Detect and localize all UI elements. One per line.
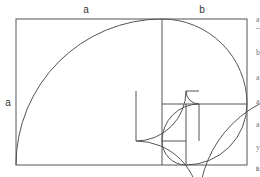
spiral-arc: [186, 104, 247, 165]
label-top-b: b: [199, 4, 205, 15]
side-text-fragment: a: [256, 73, 260, 82]
spiral-arc: [162, 19, 247, 104]
side-text-fragment: b: [256, 48, 260, 57]
side-text-fragment: y: [256, 143, 260, 152]
side-text-fragment: a: [256, 120, 260, 129]
side-text-fragment: —: [255, 23, 260, 32]
clipped-side-text: a—baaayta: [255, 15, 260, 173]
label-top-a: a: [83, 4, 89, 15]
side-text-fragment: a: [256, 164, 260, 173]
outer-rectangle: [16, 19, 247, 165]
golden-spiral-diagram: a b a a—baaayta: [0, 0, 260, 177]
spiral-arc: [186, 91, 199, 104]
spiral-arc: [162, 104, 199, 141]
side-text-fragment: a: [256, 97, 260, 106]
spiral-arc: [136, 91, 186, 141]
spiral-arc: [16, 19, 162, 165]
spiral-arc: [136, 141, 199, 177]
spiral: [16, 19, 260, 177]
label-left-a: a: [5, 97, 11, 108]
subdivision-lines: [16, 19, 260, 177]
